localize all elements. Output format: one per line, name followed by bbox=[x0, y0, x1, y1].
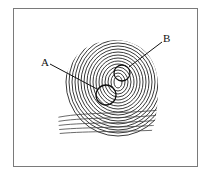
fingerprint-diagram bbox=[0, 0, 211, 175]
fingerprint-ridges bbox=[55, 28, 170, 136]
leader-line-b bbox=[129, 42, 162, 67]
label-a: A bbox=[41, 57, 49, 68]
label-b: B bbox=[163, 33, 170, 44]
